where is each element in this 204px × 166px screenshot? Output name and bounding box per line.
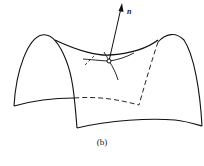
hidden-back-edge bbox=[74, 97, 139, 105]
left-arch-edge bbox=[14, 35, 77, 128]
surface-point bbox=[107, 59, 111, 63]
surface-curve-dashed bbox=[85, 56, 94, 65]
hidden-right-edge bbox=[139, 42, 158, 105]
top-saddle-curve bbox=[55, 40, 158, 55]
normal-vector-label: n bbox=[127, 7, 131, 16]
normal-vector bbox=[109, 8, 121, 61]
left-bottom-edge bbox=[14, 98, 74, 106]
surface-curve-vertical bbox=[104, 52, 118, 80]
right-arch-edge bbox=[158, 35, 202, 126]
arrow-head-icon bbox=[119, 3, 124, 12]
front-bottom-edge bbox=[77, 119, 202, 128]
figure-caption: (b) bbox=[0, 137, 204, 147]
